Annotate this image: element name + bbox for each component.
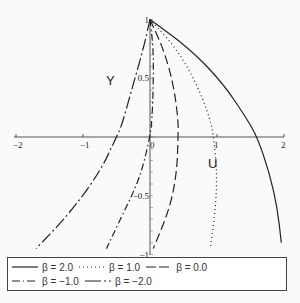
legend: β = 2.0 β = 1.0 β = 0.0 β = −1.0 β = −2.… — [7, 257, 287, 291]
curve-long-dash — [36, 20, 150, 249]
plot-area: −2−101210.5−0.5−1 Y U — [0, 0, 300, 260]
legend-item-beta-neg1: β = −1.0 — [12, 274, 79, 288]
dotted-line-icon — [79, 264, 105, 270]
legend-item-beta-neg2: β = −2.0 — [85, 274, 152, 288]
x-tick-label: 1 — [214, 140, 219, 150]
curve-dashed — [150, 20, 178, 249]
legend-item-beta-0: β = 0.0 — [146, 260, 207, 274]
x-tick-label: 2 — [281, 140, 286, 150]
dashed-line-icon — [146, 264, 172, 270]
legend-item-beta-2: β = 2.0 — [12, 260, 73, 274]
legend-item-beta-1: β = 1.0 — [79, 260, 140, 274]
y-tick-label: 0.5 — [138, 73, 150, 83]
curve-dash-dot — [106, 20, 153, 249]
y-axis-label: Y — [106, 73, 115, 88]
y-tick-label: −0.5 — [133, 191, 150, 201]
curve-dotted — [150, 20, 217, 249]
solid-line-icon — [12, 264, 38, 270]
x-axis-label: U — [208, 156, 217, 171]
x-tick-label: −1 — [80, 140, 90, 150]
dash-dot-line-icon — [12, 278, 38, 284]
y-tick-label: 1 — [145, 15, 150, 25]
long-dash-line-icon — [85, 278, 111, 284]
x-tick-label: −2 — [13, 140, 23, 150]
curves — [36, 20, 281, 249]
